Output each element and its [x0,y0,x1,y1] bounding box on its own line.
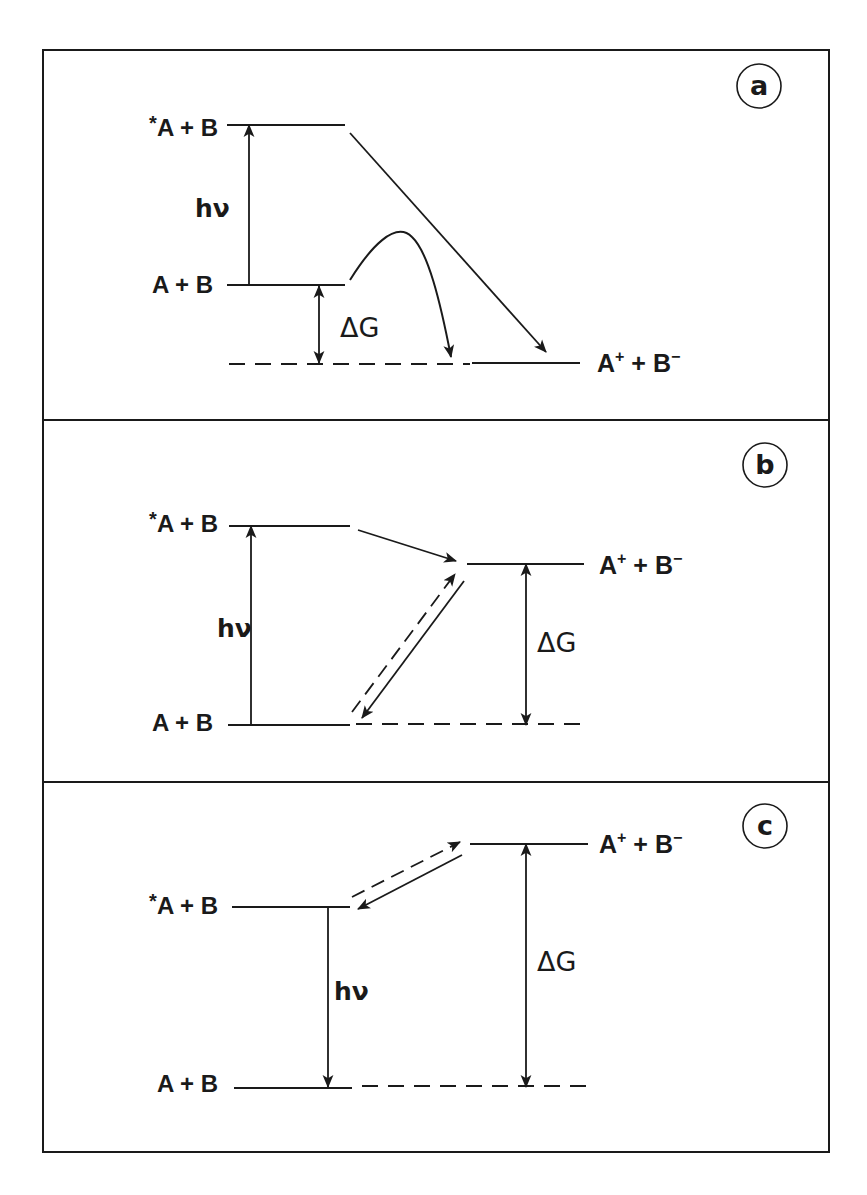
panel-c: cA+ + B−*A + BA + BhνΔG [149,804,787,1097]
ion-pair-label: A+ + B− [597,348,680,377]
panel-badge-label: a [750,70,768,101]
panel-badge-label: c [757,810,773,841]
panel-b: b*A + BA+ + B−A + BhνΔG [149,443,787,736]
panel-badge-b: b [743,443,787,487]
delta-g-label: ΔG [537,627,576,658]
ion-pair-label: A+ + B− [599,550,682,579]
panels: a*A + BA + BA+ + B−hνΔGb*A + BA+ + B−A +… [149,64,787,1097]
ground-state-label: A + B [157,1070,218,1097]
panel-badge-c: c [743,804,787,848]
delta-g-label: ΔG [537,946,576,977]
charge-recombination-arrow [362,581,464,718]
ion-pair-label: A+ + B− [599,829,682,858]
forward-electron-transfer-arrow [358,530,456,561]
h-nu-label: hν [334,977,369,1006]
ground-state-label: A + B [152,709,213,736]
h-nu-label: hν [195,194,230,223]
delta-g-label: ΔG [340,312,379,343]
panel-a: a*A + BA + BA+ + B−hνΔG [149,64,781,377]
panel-badge-label: b [755,449,774,480]
excited-state-label: *A + B [149,112,218,141]
energy-level-figure: a*A + BA + BA+ + B−hνΔGb*A + BA+ + B−A +… [0,0,867,1195]
back-electron-transfer-arrow [358,855,462,909]
back-electron-transfer-dashed-arrow [352,574,455,712]
ground-state-label: A + B [152,271,213,298]
forward-electron-transfer-dashed-arrow [352,842,460,897]
excited-state-label: *A + B [149,890,218,919]
figure-frame [43,50,829,1152]
h-nu-label: hν [217,614,252,643]
excited-state-label: *A + B [149,508,218,537]
panel-badge-a: a [737,64,781,108]
